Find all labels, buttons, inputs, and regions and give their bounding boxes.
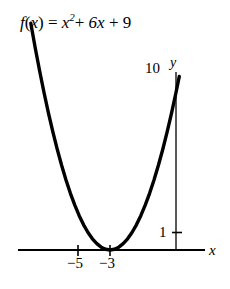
x-axis-label: x (209, 243, 216, 258)
graph-canvas (0, 0, 230, 289)
y-axis-label: y (170, 56, 176, 70)
parabola-figure: f(x) = x2+ 6x + 9 x y −5 −3 10 1 (0, 0, 230, 289)
y-tick-label-1: 1 (159, 225, 167, 240)
parabola-curve (31, 23, 180, 250)
y-tick-label-10: 10 (145, 61, 160, 76)
x-tick-label-neg3: −3 (99, 256, 115, 271)
x-tick-label-neg5: −5 (67, 256, 83, 271)
